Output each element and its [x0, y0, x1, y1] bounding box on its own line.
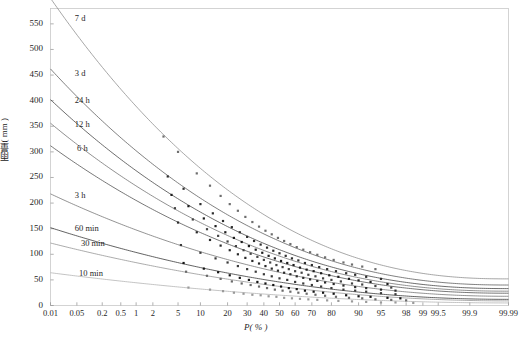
- y-tick-label: 550: [17, 18, 43, 28]
- curve-label-24-h: 24 h: [75, 95, 90, 105]
- y-tick-label: 450: [17, 69, 43, 79]
- y-axis-title: 雨量( mm ): [0, 118, 15, 161]
- probability-plot-canvas: [0, 0, 529, 340]
- x-axis-title: P( % ): [244, 322, 268, 332]
- chart-figure: 雨量( mm ) 0501001502002503003504004505005…: [0, 0, 529, 340]
- y-tick-label: 150: [17, 223, 43, 233]
- curve-label-7-d: 7 d: [75, 13, 86, 23]
- y-tick-label: 400: [17, 95, 43, 105]
- x-tick-label: 99.9: [450, 308, 490, 318]
- y-tick-label: 300: [17, 146, 43, 156]
- curve-label-6-h: 6 h: [77, 143, 88, 153]
- y-tick-label: 200: [17, 197, 43, 207]
- y-tick-label: 350: [17, 120, 43, 130]
- x-tick-label: 99.99: [489, 308, 529, 318]
- curve-label-3-h: 3 h: [75, 190, 86, 200]
- y-tick-label: 100: [17, 248, 43, 258]
- curve-label-10-min: 10 min: [79, 268, 103, 278]
- curve-label-3-d: 3 d: [75, 68, 86, 78]
- curve-label-30-min: 30 min: [81, 238, 105, 248]
- y-tick-label: 50: [17, 274, 43, 284]
- y-tick-label: 500: [17, 43, 43, 53]
- y-tick-label: 250: [17, 171, 43, 181]
- curve-label-60-min: 60 min: [75, 223, 99, 233]
- curve-label-12-h: 12 h: [75, 119, 90, 129]
